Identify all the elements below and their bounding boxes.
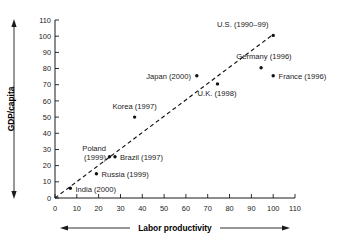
y-axis-ticks [55,20,59,198]
x-tick-label-80: 80 [225,204,233,213]
x-axis-tick-labels: 0 10 20 30 40 50 60 70 80 90 100 110 [53,204,301,213]
data-label-poland-line2: (1999) [84,153,106,162]
scatter-chart-figure: GDP/capita 0 10 20 30 40 [0,0,343,241]
y-tick-label-10: 10 [43,177,51,186]
data-label-us: U.S. (1990–99) [217,20,269,29]
x-tick-label-40: 40 [138,204,146,213]
y-axis-arrow-head-up [11,19,16,27]
x-tick-label-110: 110 [289,204,301,213]
x-tick-label-0: 0 [53,204,57,213]
data-point-japan[interactable] [195,74,198,77]
data-point-korea[interactable] [133,115,136,118]
data-label-brazil: Brazil (1997) [120,153,164,162]
x-tick-label-100: 100 [267,204,279,213]
y-tick-label-110: 110 [39,16,51,25]
data-point-labels: India (2000) Russia (1999) Poland (1999)… [76,20,327,194]
y-tick-label-70: 70 [43,80,51,89]
data-point-germany[interactable] [259,66,262,69]
data-point-uk[interactable] [216,82,219,85]
data-label-russia: Russia (1999) [102,170,150,179]
data-point-france[interactable] [272,74,275,77]
y-tick-label-60: 60 [43,97,51,106]
y-tick-label-20: 20 [43,161,51,170]
data-label-japan: Japan (2000) [146,72,191,81]
x-axis-arrow-head-right [282,225,290,230]
x-tick-label-50: 50 [160,204,168,213]
x-tick-label-70: 70 [204,204,212,213]
x-axis-title-group: Labor productivity [60,223,290,233]
chart-canvas: GDP/capita 0 10 20 30 40 [0,0,343,241]
data-point-india[interactable] [69,187,72,190]
y-tick-label-90: 90 [43,48,51,57]
x-axis-ticks [55,194,295,198]
x-axis-title: Labor productivity [138,223,212,233]
x-tick-label-90: 90 [247,204,255,213]
y-axis-tick-labels: 0 10 20 30 40 50 60 70 80 90 100 110 [39,16,51,203]
data-point-brazil[interactable] [113,155,116,158]
x-tick-label-60: 60 [182,204,190,213]
x-tick-label-30: 30 [116,204,124,213]
data-point-us[interactable] [272,34,275,37]
y-axis-title-group: GDP/capita [6,19,17,199]
data-label-france: France (1996) [279,72,327,81]
y-axis-title: GDP/capita [6,86,16,131]
data-label-uk: U.K. (1998) [198,89,237,98]
y-tick-label-80: 80 [43,64,51,73]
data-point-russia[interactable] [95,172,98,175]
y-axis-arrow-head-down [11,191,16,199]
x-tick-label-20: 20 [94,204,102,213]
data-label-korea: Korea (1997) [112,102,157,111]
x-axis-arrow-head-left [60,225,68,230]
data-point-poland[interactable] [108,155,111,158]
data-label-india: India (2000) [76,185,117,194]
y-tick-label-50: 50 [43,113,51,122]
x-tick-label-10: 10 [73,204,81,213]
y-tick-label-30: 30 [43,145,51,154]
data-label-poland-line1: Poland [82,144,106,153]
data-label-germany: Germany (1996) [236,52,292,61]
y-tick-label-40: 40 [43,129,51,138]
y-tick-label-0: 0 [47,194,51,203]
y-tick-label-100: 100 [39,32,51,41]
